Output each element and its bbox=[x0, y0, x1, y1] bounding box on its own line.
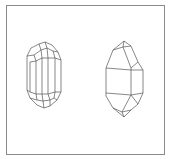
crystal-diagram bbox=[0, 0, 170, 159]
right-crystal bbox=[106, 41, 143, 117]
left-crystal bbox=[27, 42, 61, 108]
